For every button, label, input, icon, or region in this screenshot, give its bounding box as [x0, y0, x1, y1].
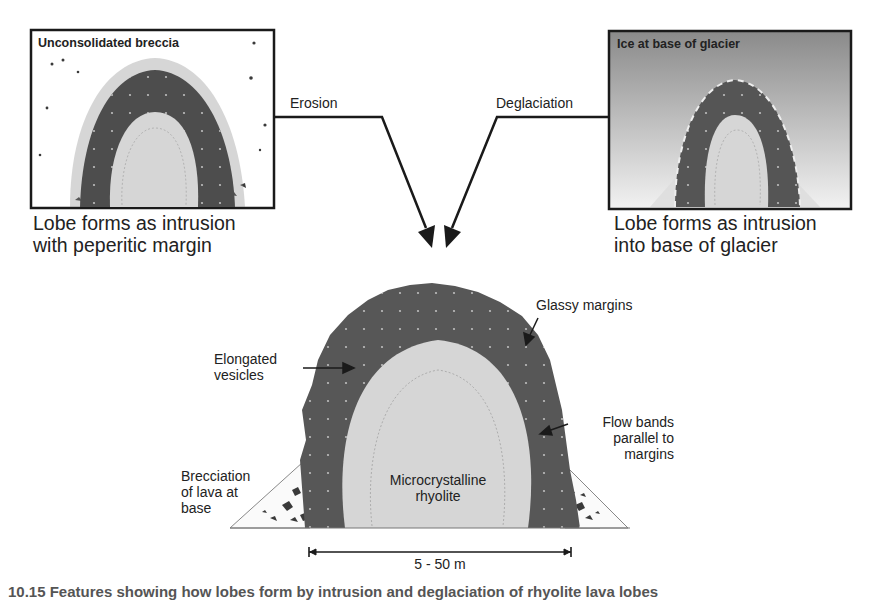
- flow-bands-label: Flow bands parallel to margins: [572, 414, 674, 462]
- deglaciation-label: Deglaciation: [496, 95, 573, 111]
- right-caption-line-2: into base of glacier: [614, 234, 817, 256]
- connector-arrows: [274, 117, 608, 228]
- flow-bands-line-1: Flow bands: [572, 414, 674, 430]
- left-panel: [31, 30, 274, 208]
- flow-bands-line-3: margins: [572, 446, 674, 462]
- elongated-vesicles-line-2: vesicles: [214, 367, 277, 383]
- brecciation-line-3: base: [181, 500, 250, 516]
- core-label: Microcrystalline rhyolite: [375, 472, 501, 504]
- brecciation-label: Brecciation of lava at base: [181, 468, 250, 516]
- core-line-2: rhyolite: [375, 488, 501, 504]
- right-panel-caption: Lobe forms as intrusion into base of gla…: [614, 212, 817, 256]
- right-panel: [609, 31, 851, 209]
- left-caption-line-1: Lobe forms as intrusion: [33, 212, 236, 234]
- brecciation-line-1: Brecciation: [181, 468, 250, 484]
- left-panel-caption: Lobe forms as intrusion with peperitic m…: [33, 212, 236, 256]
- right-caption-line-1: Lobe forms as intrusion: [614, 212, 817, 234]
- arrowhead-right: [444, 225, 461, 248]
- core-line-1: Microcrystalline: [375, 472, 501, 488]
- glassy-margins-label: Glassy margins: [536, 297, 632, 313]
- right-panel-title: Ice at base of glacier: [617, 37, 740, 51]
- brecciation-line-2: of lava at: [181, 484, 250, 500]
- elongated-vesicles-line-1: Elongated: [214, 351, 277, 367]
- elongated-vesicles-label: Elongated vesicles: [214, 351, 277, 383]
- figure-caption: 10.15 Features showing how lobes form by…: [8, 583, 658, 600]
- flow-bands-line-2: parallel to: [572, 430, 674, 446]
- left-panel-title: Unconsolidated breccia: [38, 36, 179, 50]
- erosion-label: Erosion: [290, 95, 337, 111]
- scale-bar-label: 5 - 50 m: [390, 556, 490, 572]
- left-caption-line-2: with peperitic margin: [33, 234, 236, 256]
- arrowhead-left: [418, 225, 435, 248]
